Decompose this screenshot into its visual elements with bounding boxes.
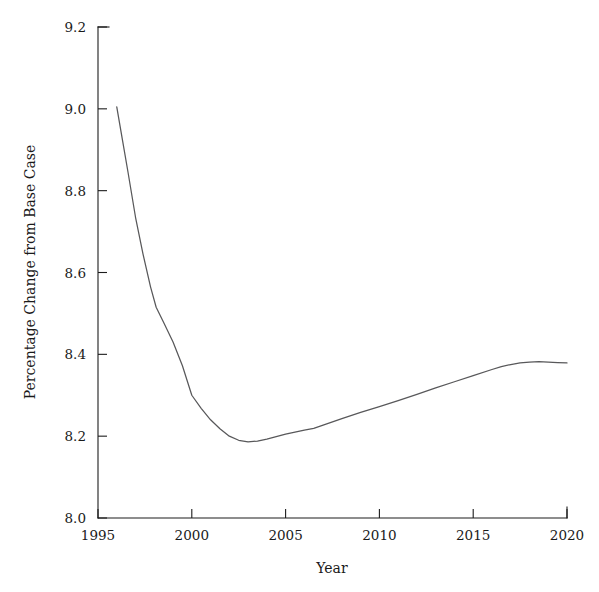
y-axis-title: Percentage Change from Base Case [22, 145, 38, 399]
x-tick-label: 2010 [362, 527, 396, 543]
x-tick-label: 2005 [268, 527, 302, 543]
x-tick-label: 2015 [456, 527, 490, 543]
y-tick-label: 8.8 [65, 183, 86, 199]
y-tick-label: 8.6 [65, 265, 86, 281]
chart-figure: 8.08.28.48.68.89.09.2 199520002005201020… [0, 0, 599, 592]
y-tick-label: 8.4 [65, 346, 86, 362]
x-axis-title: Year [315, 560, 348, 576]
x-tick-label: 1995 [81, 527, 115, 543]
y-tick-label: 8.0 [65, 510, 86, 526]
y-tick-label: 9.2 [65, 19, 86, 35]
chart-background [0, 0, 599, 592]
x-tick-label: 2020 [550, 527, 584, 543]
x-tick-label: 2000 [175, 527, 209, 543]
y-tick-label: 8.2 [65, 428, 86, 444]
line-chart: 8.08.28.48.68.89.09.2 199520002005201020… [0, 0, 599, 592]
y-tick-label: 9.0 [65, 101, 86, 117]
